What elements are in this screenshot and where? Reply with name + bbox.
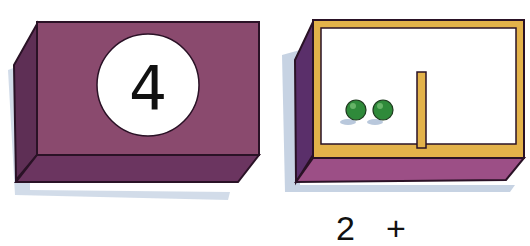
boxes-illustration — [0, 0, 530, 246]
pea — [373, 100, 393, 120]
illustration: 4 2 + — [0, 0, 530, 246]
pea — [346, 100, 366, 120]
equation-first: 2 — [336, 210, 355, 246]
right-box — [295, 20, 524, 182]
box-number: 4 — [98, 58, 198, 118]
equation-operator: + — [386, 210, 406, 246]
